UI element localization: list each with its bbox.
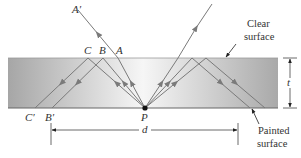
painted-surface-label-1: Painted — [258, 125, 290, 136]
glass-slab-diagram: A′ C B A C′ B′ P d t Clear surface Paint… — [0, 0, 301, 158]
clear-surface-pointer — [226, 44, 236, 57]
label-b-prime: B′ — [45, 111, 55, 123]
painted-surface-label-2: surface — [257, 138, 288, 149]
label-p: P — [140, 111, 148, 123]
label-c-prime: C′ — [25, 111, 35, 123]
label-a: A — [115, 44, 123, 56]
point-p — [142, 105, 147, 110]
label-c: C — [84, 44, 92, 56]
glass-slab — [8, 58, 278, 108]
painted-surface-pointer — [252, 109, 259, 124]
clear-surface-label-1: Clear — [247, 18, 270, 29]
label-b: B — [99, 44, 106, 56]
label-a-prime: A′ — [71, 3, 82, 15]
label-d: d — [142, 123, 148, 135]
clear-surface-label-2: surface — [244, 31, 275, 42]
